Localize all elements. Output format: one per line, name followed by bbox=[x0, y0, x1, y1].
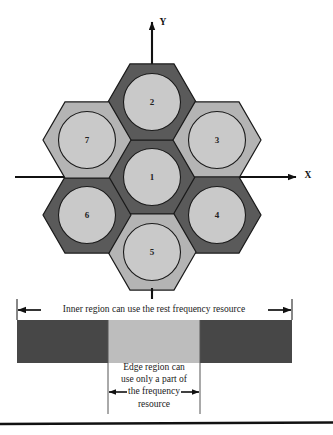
inner-region-label: Inner region can use the rest frequency … bbox=[63, 304, 245, 314]
hex-cell-2-label: 2 bbox=[150, 97, 155, 107]
hex-cell-3-label: 3 bbox=[215, 135, 220, 145]
y-axis-label: Y bbox=[160, 17, 167, 27]
cell-frequency-diagram: Y X 1234567 Inner region can use the res… bbox=[0, 0, 333, 435]
hex-cell-4-label: 4 bbox=[215, 210, 220, 220]
diagram-canvas: Y X 1234567 Inner region can use the res… bbox=[0, 0, 333, 435]
bottom-divider bbox=[0, 423, 333, 425]
bar-segment-left bbox=[17, 320, 108, 363]
hex-cell-7-label: 7 bbox=[85, 135, 90, 145]
x-axis-label: X bbox=[305, 170, 312, 180]
frequency-resource-bar bbox=[17, 320, 292, 363]
hexagon-cluster: 1234567 bbox=[43, 64, 261, 299]
hex-cell-5-label: 5 bbox=[150, 247, 155, 257]
edge-region-line-2: use only a part of bbox=[121, 374, 188, 384]
hex-cell-6-label: 6 bbox=[85, 210, 90, 220]
edge-region-line-1: Edge region can bbox=[123, 362, 185, 372]
edge-region-line-4: resource bbox=[138, 399, 170, 409]
bar-segment-middle bbox=[108, 320, 200, 363]
hex-cell-1-label: 1 bbox=[150, 172, 155, 182]
bottom-divider-line bbox=[0, 423, 333, 425]
inner-region-annotation: Inner region can use the rest frequency … bbox=[17, 299, 292, 320]
bar-segment-right bbox=[200, 320, 292, 363]
edge-region-line-3: the frequency bbox=[128, 386, 180, 396]
